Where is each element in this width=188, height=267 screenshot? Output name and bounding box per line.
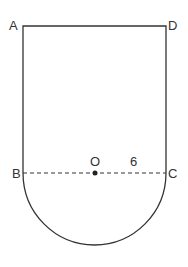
diagram-canvas: A D B C O 6 [0, 0, 188, 267]
label-b: B [12, 166, 21, 181]
shape-outline [23, 26, 166, 245]
radius-label: 6 [130, 154, 137, 169]
center-point-o [93, 171, 98, 176]
label-a: A [9, 18, 18, 33]
label-o: O [90, 154, 100, 169]
label-c: C [168, 166, 177, 181]
label-d: D [168, 18, 177, 33]
